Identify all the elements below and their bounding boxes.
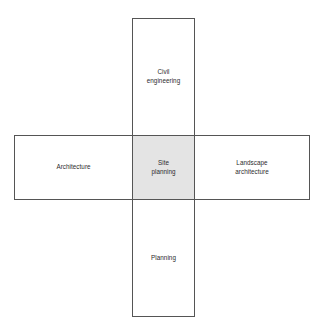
diagram-canvas: Civil engineering Architecture Site plan… xyxy=(0,0,323,331)
horizontal-arm-box xyxy=(14,135,310,200)
